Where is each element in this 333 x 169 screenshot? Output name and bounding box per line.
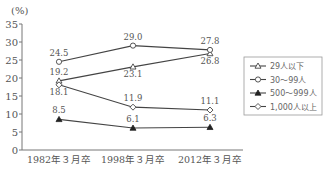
circle-marker-icon	[56, 59, 61, 64]
data-label: 29.0	[124, 32, 143, 42]
data-label: 8.5	[52, 105, 66, 115]
circle-marker-icon	[255, 77, 260, 82]
data-label: 18.1	[50, 87, 69, 97]
circle-marker-icon	[207, 47, 212, 52]
legend-item-label: 500～999人	[270, 89, 317, 98]
data-label: 27.8	[201, 36, 220, 46]
y-tick-label: 35	[5, 19, 18, 30]
legend-item-label: 1,000人以上	[270, 103, 317, 112]
data-label: 26.8	[201, 56, 220, 66]
diamond-marker-icon	[207, 107, 213, 113]
data-label: 23.1	[124, 69, 143, 79]
x-tick-label: 2012年３月卒	[178, 154, 242, 165]
y-tick-label: 10	[5, 109, 18, 120]
y-tick-label: 20	[5, 73, 18, 84]
legend-item-label: 30～99人	[270, 76, 306, 85]
filled-triangle-marker-icon	[56, 116, 62, 121]
data-label: 11.9	[124, 93, 143, 103]
diamond-marker-icon	[130, 104, 136, 110]
data-label: 11.1	[201, 96, 220, 106]
data-label: 6.1	[126, 114, 140, 124]
y-tick-label: 0	[12, 145, 18, 156]
data-label: 24.5	[50, 48, 69, 58]
legend: 29人以下30～99人500～999人1,000人以上	[244, 57, 322, 115]
legend-item-label: 29人以下	[270, 62, 304, 71]
x-axis: 1982年３月卒1998年３月卒2012年３月卒	[22, 150, 243, 165]
data-label: 6.3	[203, 113, 217, 123]
y-tick-label: 30	[5, 37, 18, 48]
x-tick-label: 1998年３月卒	[101, 154, 165, 165]
x-tick-label: 1982年３月卒	[27, 154, 91, 165]
y-axis-unit-label: (%)	[11, 5, 28, 16]
y-axis: 05101520253035	[5, 19, 22, 156]
y-tick-label: 5	[12, 127, 18, 138]
y-tick-label: 25	[5, 55, 18, 66]
circle-marker-icon	[130, 43, 135, 48]
data-label: 19.2	[50, 67, 69, 77]
line-chart: (%) 05101520253035 1982年３月卒1998年３月卒2012年…	[0, 0, 333, 169]
y-tick-label: 15	[5, 91, 18, 102]
